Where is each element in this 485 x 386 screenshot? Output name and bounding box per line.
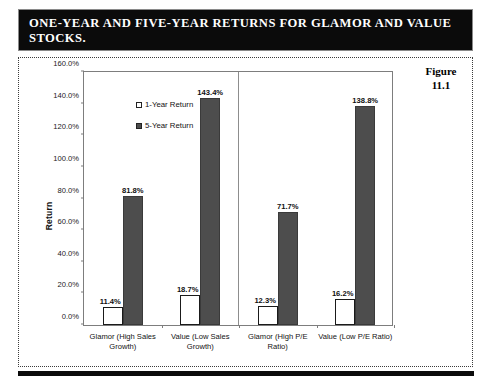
- y-axis-tick-label: 0.0%: [26, 312, 84, 321]
- figure-caption-label: Figure: [426, 65, 457, 77]
- bar-value-label: 81.8%: [122, 186, 144, 195]
- group-divider: [238, 72, 239, 325]
- bar-value-label: 16.2%: [332, 289, 354, 298]
- legend-swatch-five-year-icon: [136, 123, 142, 129]
- bar-value-label: 71.7%: [277, 202, 299, 211]
- y-axis-tick-label: 20.0%: [26, 280, 84, 289]
- y-axis-tick-label: 140.0%: [26, 90, 84, 99]
- chart-legend: 1-Year Return5-Year Return: [136, 100, 193, 142]
- bar-five-year[interactable]: 81.8%: [123, 196, 143, 325]
- y-axis-tick-label: 100.0%: [26, 153, 84, 162]
- x-axis-category-label: Glamor (High Sales Growth): [84, 332, 162, 351]
- y-axis-tick-label: 160.0%: [26, 59, 84, 68]
- y-axis-tick-mark: [81, 324, 84, 325]
- bar-value-label: 138.8%: [352, 96, 378, 105]
- y-axis-tick-label: 80.0%: [26, 185, 84, 194]
- figure-caption-number: 11.1: [408, 78, 474, 92]
- bar-five-year[interactable]: 138.8%: [355, 106, 375, 325]
- x-axis-tick-mark: [394, 325, 395, 328]
- bar-one-year[interactable]: 18.7%: [180, 295, 200, 325]
- bar-group: 16.2%138.8%: [335, 72, 375, 325]
- y-axis-tick-mark: [81, 229, 84, 230]
- x-axis-tick-mark: [162, 325, 163, 328]
- legend-item-label: 5-Year Return: [145, 121, 193, 130]
- bar-one-year[interactable]: 11.4%: [103, 307, 123, 325]
- bar-group: 12.3%71.7%: [258, 72, 298, 325]
- bar-one-year[interactable]: 16.2%: [335, 299, 355, 325]
- plot-area: 0.0%20.0%40.0%60.0%80.0%100.0%120.0%140.…: [83, 71, 393, 326]
- y-axis-tick-mark: [81, 260, 84, 261]
- x-axis-category-label: Value (Low Sales Growth): [162, 332, 240, 351]
- x-axis-category-label: Glamor (High P/E Ratio): [239, 332, 317, 351]
- bar-value-label: 11.4%: [100, 297, 121, 306]
- bar-five-year[interactable]: 71.7%: [278, 212, 298, 325]
- legend-swatch-one-year-icon: [136, 102, 142, 108]
- y-axis-tick-label: 120.0%: [26, 122, 84, 131]
- y-axis-tick-mark: [81, 134, 84, 135]
- y-axis-tick-mark: [81, 71, 84, 72]
- y-axis-tick-label: 40.0%: [26, 248, 84, 257]
- bar-value-label: 143.4%: [197, 88, 223, 97]
- legend-item[interactable]: 5-Year Return: [136, 121, 193, 130]
- x-axis-tick-mark: [239, 325, 240, 328]
- bottom-rule: [18, 371, 474, 376]
- figure-caption: Figure 11.1: [408, 64, 474, 92]
- bar-value-label: 12.3%: [254, 296, 276, 305]
- y-axis-tick-mark: [81, 292, 84, 293]
- chart-title: ONE-YEAR AND FIVE-YEAR RETURNS FOR GLAMO…: [19, 10, 472, 46]
- bar-one-year[interactable]: 12.3%: [258, 306, 278, 325]
- y-axis-tick-mark: [81, 197, 84, 198]
- y-axis-tick-mark: [81, 102, 84, 103]
- chart: Return 0.0%20.0%40.0%60.0%80.0%100.0%120…: [22, 61, 402, 363]
- bar-five-year[interactable]: 143.4%: [200, 98, 220, 325]
- y-axis-tick-mark: [81, 165, 84, 166]
- y-axis-tick-label: 60.0%: [26, 217, 84, 226]
- bar-value-label: 18.7%: [177, 285, 199, 294]
- x-axis-category-label: Value (Low P/E Ratio): [317, 332, 395, 342]
- legend-item-label: 1-Year Return: [145, 100, 193, 109]
- x-axis-tick-mark: [317, 325, 318, 328]
- chart-title-banner: ONE-YEAR AND FIVE-YEAR RETURNS FOR GLAMO…: [18, 9, 473, 51]
- legend-item[interactable]: 1-Year Return: [136, 100, 193, 109]
